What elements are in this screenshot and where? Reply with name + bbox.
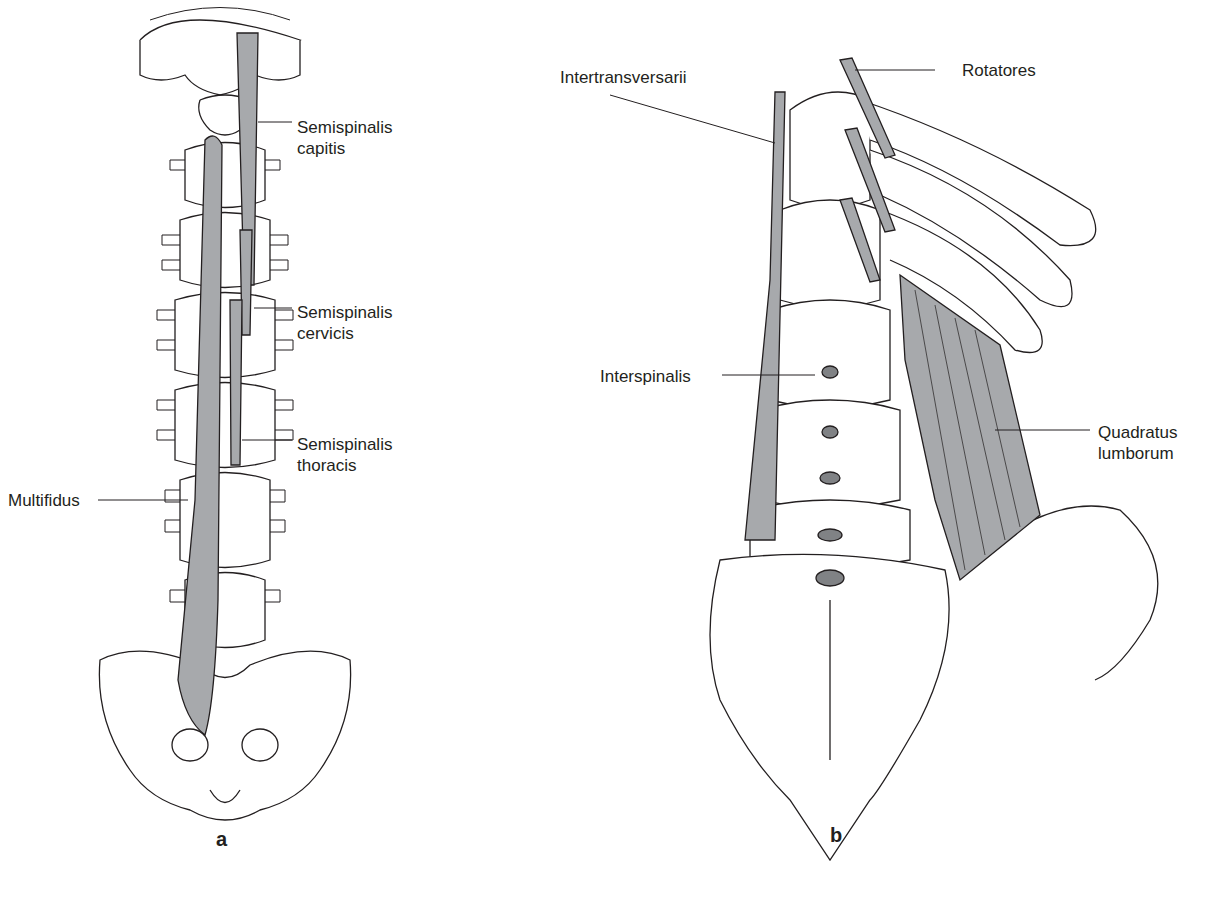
- anatomy-figure: Semispinalis capitis Semispinalis cervic…: [0, 0, 1207, 914]
- panel-label-a: a: [216, 828, 227, 851]
- label-interspinalis: Interspinalis: [600, 366, 691, 387]
- semispinalis-thoracis-muscle: [230, 300, 242, 465]
- label-multifidus: Multifidus: [8, 490, 80, 511]
- panel-label-b: b: [830, 824, 842, 847]
- label-intertransversarii: Intertransversarii: [560, 67, 687, 88]
- label-semispinalis-capitis: Semispinalis capitis: [297, 117, 392, 159]
- label-rotatores: Rotatores: [962, 60, 1036, 81]
- label-semispinalis-cervicis: Semispinalis cervicis: [297, 302, 392, 344]
- label-semispinalis-thoracis: Semispinalis thoracis: [297, 434, 392, 476]
- panel-b-drawing: [610, 58, 1158, 860]
- label-quadratus-lumborum: Quadratus lumborum: [1098, 422, 1177, 464]
- illustration: [0, 0, 1207, 914]
